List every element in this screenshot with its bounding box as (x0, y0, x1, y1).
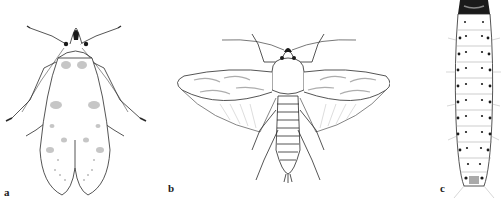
moth-folded-illustration (0, 0, 170, 205)
larva-illustration (420, 0, 501, 205)
panel-label-a: a (4, 186, 10, 198)
moth-spread-illustration (160, 0, 390, 205)
panel-a: a (0, 0, 170, 205)
panel-c: c (420, 0, 501, 205)
panel-b: b (160, 0, 390, 205)
panel-label-b: b (168, 182, 174, 194)
panel-label-c: c (440, 182, 445, 194)
